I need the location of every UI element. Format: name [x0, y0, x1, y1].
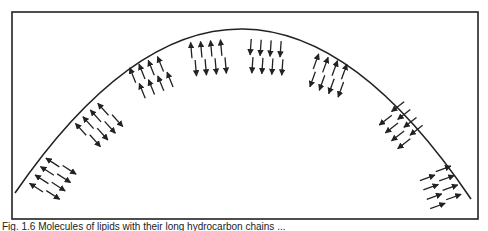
arrow-down-icon [385, 123, 398, 133]
arrow-up-icon [158, 57, 164, 72]
lipid-group [419, 166, 462, 209]
arrow-down-icon [52, 182, 65, 191]
arrow-down-icon [260, 40, 261, 56]
arrow-down-icon [250, 39, 251, 55]
arrow-up-icon [35, 175, 48, 184]
arrow-up-icon [210, 41, 211, 57]
arrow-up-icon [149, 80, 155, 95]
arrow-down-icon [105, 121, 116, 133]
arrow-up-icon [201, 42, 202, 58]
membrane-arc [15, 29, 471, 199]
arrow-down-icon [329, 79, 334, 94]
arrow-up-icon [446, 194, 461, 199]
arrow-up-icon [139, 64, 145, 79]
arrow-up-icon [420, 175, 435, 180]
arrow-up-icon [332, 61, 337, 76]
arrow-down-icon [310, 72, 315, 87]
arrow-down-icon [195, 60, 196, 76]
arrow-up-icon [98, 103, 109, 115]
arrow-up-icon [83, 117, 94, 129]
arrow-up-icon [220, 40, 221, 56]
arrow-down-icon [205, 59, 206, 75]
arrow-up-icon [130, 68, 136, 83]
figure-caption: Fig. 1.6 Molecules of lipids with their … [2, 221, 285, 231]
arrow-down-icon [338, 82, 343, 97]
lipid-group [130, 55, 173, 99]
arrow-up-icon [158, 76, 164, 91]
arrow-down-icon [97, 128, 108, 140]
arrow-up-icon [323, 57, 328, 72]
arrow-up-icon [439, 175, 454, 180]
arrow-down-icon [262, 58, 263, 74]
lipid-group [75, 101, 122, 148]
arrow-up-icon [148, 60, 154, 75]
arrow-up-icon [423, 184, 438, 189]
arrow-down-icon [379, 115, 392, 125]
arrow-up-icon [40, 167, 53, 176]
arrow-up-icon [139, 83, 145, 98]
arrow-down-icon [46, 191, 59, 200]
arrow-down-icon [57, 174, 70, 183]
arrow-down-icon [270, 40, 271, 56]
arrow-down-icon [252, 57, 253, 73]
arrow-up-icon [30, 183, 43, 192]
lipid-orientation-diagram [0, 0, 488, 231]
arrow-up-icon [75, 123, 86, 135]
figure-frame [12, 12, 478, 219]
arrow-down-icon [272, 59, 273, 75]
lipid-group [307, 54, 350, 97]
arrow-down-icon [112, 115, 123, 127]
arrow-down-icon [90, 135, 101, 147]
lipid-group [377, 102, 424, 149]
arrow-down-icon [63, 165, 76, 174]
arrow-up-icon [430, 203, 445, 208]
arrow-down-icon [215, 58, 216, 74]
lipid-group [191, 39, 227, 76]
arrow-down-icon [282, 59, 283, 75]
arrow-up-icon [167, 72, 173, 87]
arrow-down-icon [392, 131, 405, 141]
arrow-down-icon [280, 41, 281, 57]
arrow-up-icon [191, 42, 192, 58]
arrow-up-icon [90, 110, 101, 122]
arrow-up-icon [436, 166, 451, 171]
arrow-up-icon [341, 64, 346, 79]
arrow-up-icon [443, 185, 458, 190]
arrow-up-icon [46, 158, 59, 167]
lipid-group [249, 39, 284, 75]
arrow-down-icon [319, 75, 324, 90]
lipid-arrow-groups [30, 39, 463, 209]
arrow-down-icon [398, 139, 411, 149]
arrow-up-icon [313, 54, 318, 69]
arrow-down-icon [225, 57, 226, 73]
arrow-up-icon [427, 194, 442, 199]
